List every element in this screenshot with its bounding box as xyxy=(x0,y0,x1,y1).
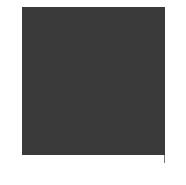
beginning-tick-mark xyxy=(164,155,165,163)
colorwork-chart-grid xyxy=(22,7,165,155)
